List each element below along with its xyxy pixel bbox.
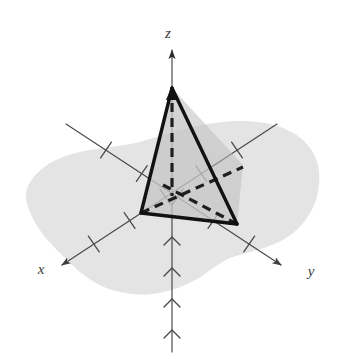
x-axis-label: x: [37, 261, 45, 277]
coordinate-figure-svg: x y z: [0, 0, 341, 359]
tetrahedron: [141, 86, 243, 224]
y-axis-label: y: [306, 263, 315, 279]
z-axis-label: z: [164, 25, 171, 41]
figure-container: x y z: [0, 0, 341, 359]
